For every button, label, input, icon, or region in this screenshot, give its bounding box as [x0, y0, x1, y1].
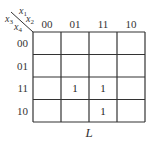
kmap-cell: 1 [100, 105, 106, 117]
function-name: L [84, 125, 92, 140]
column-label: 00 [42, 18, 54, 30]
row-labels: 00011110 [17, 37, 29, 117]
column-label: 10 [126, 18, 138, 30]
kmap-cell: 1 [72, 82, 78, 94]
kmap-grid [33, 32, 145, 122]
column-label: 01 [70, 18, 81, 30]
row-label: 11 [17, 82, 28, 94]
column-labels: 00011110 [42, 18, 138, 30]
row-var-label: x3 [4, 13, 13, 26]
karnaugh-map: x1 x2 x3 x4 00011110 00011110 111 L [0, 0, 155, 143]
row-label: 01 [17, 60, 28, 72]
col-var-label-2: x2 [25, 13, 34, 26]
row-label: 00 [17, 37, 29, 49]
row-var-label-2: x4 [13, 21, 22, 34]
kmap-cell: 1 [100, 82, 106, 94]
column-label: 11 [98, 18, 109, 30]
row-label: 10 [17, 105, 29, 117]
